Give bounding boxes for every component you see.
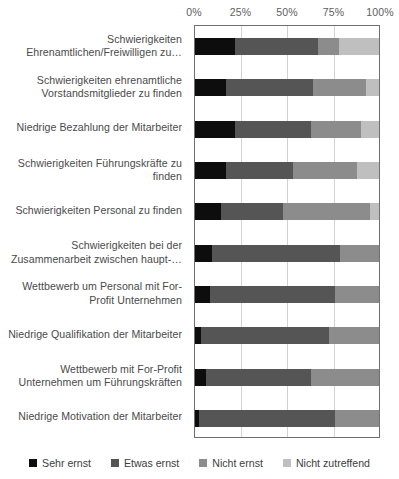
bar-segment bbox=[357, 162, 379, 179]
bar-row bbox=[195, 26, 379, 67]
legend-item[interactable]: Nicht zutreffend bbox=[283, 457, 370, 469]
category-label: Wettbewerb mit For-Profit Unternehmen um… bbox=[0, 363, 182, 390]
bar-segment bbox=[318, 38, 338, 55]
category-label: Schwierigkeiten bei der Zusammenarbeit z… bbox=[0, 239, 182, 266]
bar-segment bbox=[195, 286, 210, 303]
bar-segment bbox=[201, 327, 330, 344]
legend-label: Nicht ernst bbox=[212, 457, 263, 469]
stacked-bar bbox=[195, 162, 379, 179]
bar-segment bbox=[329, 327, 379, 344]
stacked-bar bbox=[195, 38, 379, 55]
legend-swatch-icon bbox=[199, 459, 207, 467]
category-label: Niedrige Bezahlung der Mitarbeiter bbox=[0, 122, 182, 135]
chart-legend: Sehr ernstEtwas ernstNicht ernstNicht zu… bbox=[0, 452, 399, 474]
bar-segment bbox=[212, 245, 341, 262]
x-axis-tick-labels: 0%25%50%75%100% bbox=[0, 6, 399, 22]
legend-swatch-icon bbox=[111, 459, 119, 467]
legend-item[interactable]: Nicht ernst bbox=[199, 457, 263, 469]
bar-segment bbox=[311, 369, 379, 386]
bar-row bbox=[195, 191, 379, 232]
legend-item[interactable]: Etwas ernst bbox=[111, 457, 179, 469]
x-tick-label: 75% bbox=[323, 6, 344, 18]
bar-segment bbox=[226, 79, 312, 96]
bar-segment bbox=[221, 203, 284, 220]
category-label: Schwierigkeiten Führungskräfte zu finden bbox=[0, 156, 182, 183]
bar-segment bbox=[235, 38, 318, 55]
category-label: Schwierigkeiten ehrenamtliche Vorstandsm… bbox=[0, 74, 182, 101]
bar-segment bbox=[293, 162, 357, 179]
bar-segment bbox=[340, 245, 379, 262]
bar-segment bbox=[206, 369, 311, 386]
stacked-bar bbox=[195, 79, 379, 96]
legend-label: Sehr ernst bbox=[42, 457, 91, 469]
bar-segment bbox=[370, 203, 379, 220]
category-label: Niedrige Qualifikation der Mitarbeiter bbox=[0, 328, 182, 341]
stacked-bar bbox=[195, 245, 379, 262]
x-tick-label: 50% bbox=[276, 6, 297, 18]
bar-segment bbox=[195, 121, 235, 138]
legend-swatch-icon bbox=[283, 459, 291, 467]
bar-segment bbox=[313, 79, 366, 96]
plot-area bbox=[194, 25, 380, 438]
stacked-bar bbox=[195, 327, 379, 344]
bar-segment bbox=[335, 410, 379, 427]
bar-segment bbox=[195, 38, 235, 55]
stacked-bar-chart: 0%25%50%75%100% Schwierigkeiten Ehrenamt… bbox=[0, 0, 399, 479]
bar-segment bbox=[195, 245, 212, 262]
category-label: Schwierigkeiten Personal zu finden bbox=[0, 204, 182, 217]
bar-row bbox=[195, 315, 379, 356]
category-label: Schwierigkeiten Ehrenamtlichen/Freiwilli… bbox=[0, 32, 182, 59]
bar-row bbox=[195, 67, 379, 108]
bar-segment bbox=[195, 79, 226, 96]
bar-segment bbox=[226, 162, 292, 179]
bar-row bbox=[195, 232, 379, 273]
bar-segment bbox=[335, 286, 379, 303]
x-tick-label: 0% bbox=[186, 6, 201, 18]
bar-segment bbox=[195, 203, 221, 220]
bar-row bbox=[195, 109, 379, 150]
bar-row bbox=[195, 398, 379, 439]
bar-row bbox=[195, 150, 379, 191]
category-label: Niedrige Motivation der Mitarbeiter bbox=[0, 411, 182, 424]
bar-row bbox=[195, 356, 379, 397]
bar-segment bbox=[311, 121, 361, 138]
bar-segment bbox=[235, 121, 310, 138]
stacked-bar bbox=[195, 121, 379, 138]
legend-swatch-icon bbox=[29, 459, 37, 467]
legend-item[interactable]: Sehr ernst bbox=[29, 457, 91, 469]
bar-segment bbox=[195, 369, 206, 386]
legend-label: Nicht zutreffend bbox=[296, 457, 370, 469]
stacked-bar bbox=[195, 286, 379, 303]
bar-segment bbox=[210, 286, 335, 303]
category-axis-labels: Schwierigkeiten Ehrenamtlichen/Freiwilli… bbox=[0, 25, 190, 438]
category-label: Wettbewerb um Personal mit For-Profit Un… bbox=[0, 280, 182, 307]
bar-segment bbox=[195, 162, 226, 179]
bar-rows bbox=[195, 26, 379, 437]
stacked-bar bbox=[195, 410, 379, 427]
stacked-bar bbox=[195, 203, 379, 220]
stacked-bar bbox=[195, 369, 379, 386]
bar-segment bbox=[339, 38, 379, 55]
bar-row bbox=[195, 274, 379, 315]
bar-segment bbox=[283, 203, 369, 220]
bar-segment bbox=[366, 79, 379, 96]
x-tick-label: 25% bbox=[230, 6, 251, 18]
bar-segment bbox=[199, 410, 335, 427]
legend-label: Etwas ernst bbox=[124, 457, 179, 469]
bar-segment bbox=[361, 121, 379, 138]
x-tick-label: 100% bbox=[366, 6, 393, 18]
